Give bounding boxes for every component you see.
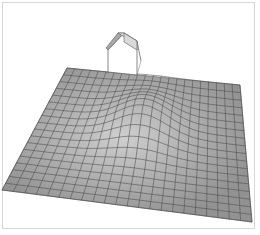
house-model: [106, 33, 141, 75]
terrain-mesh: [2, 68, 252, 222]
terrain-viewport[interactable]: [0, 0, 260, 235]
